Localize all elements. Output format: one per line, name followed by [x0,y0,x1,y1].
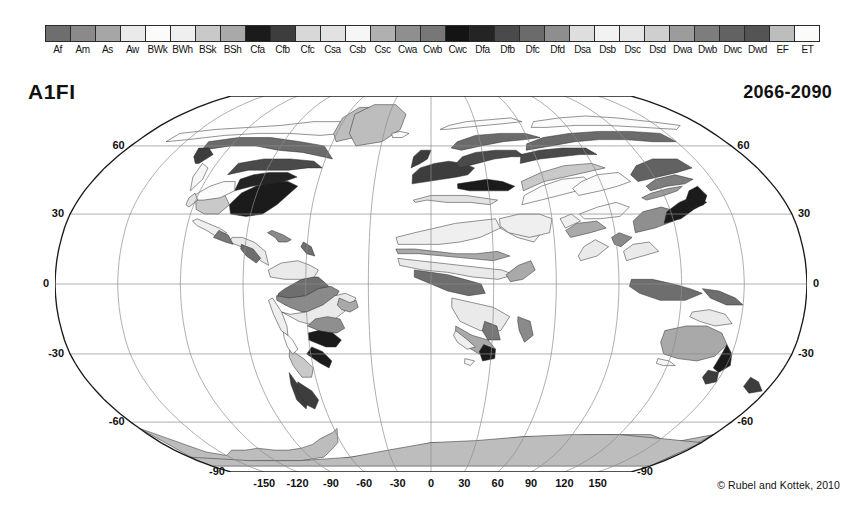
lat-label-right-0: 0 [813,277,841,289]
legend-swatch-csa [321,26,346,41]
lat-label-0: 0 [21,277,49,289]
legend-swatch-dfb [495,26,520,41]
lat-label--90: -90 [197,465,225,477]
legend-label-as: As [95,43,120,57]
legend-swatch-bwk [146,26,171,41]
legend-label-cfa: Cfa [245,43,270,57]
legend-swatch-dwc [720,26,745,41]
legend-label-dsc: Dsc [620,43,645,57]
legend-swatch-dsb [595,26,620,41]
credit-label: © Rubel and Kottek, 2010 [717,479,840,491]
legend-swatch-dsd [645,26,670,41]
legend-colorbar [45,25,820,42]
lat-label-30: 30 [36,207,64,219]
legend-label-dwb: Dwb [695,43,720,57]
legend-label-ef: EF [770,43,795,57]
legend-label-aw: Aw [120,43,145,57]
legend-label-am: Am [70,43,95,57]
lat-label-right-30: 30 [798,207,826,219]
legend-label-dfc: Dfc [520,43,545,57]
legend-swatch-as [96,26,121,41]
legend-label-bwk: BWk [145,43,170,57]
legend-swatch-af [46,26,71,41]
legend-swatch-cwc [446,26,471,41]
lat-label-right--30: -30 [798,347,826,359]
lat-label-60: 60 [97,139,125,151]
legend-label-af: Af [45,43,70,57]
legend-label-dfa: Dfa [470,43,495,57]
legend-swatch-cfc [296,26,321,41]
legend-label-dwd: Dwd [745,43,770,57]
map-svg [55,96,807,472]
legend-label-dfd: Dfd [545,43,570,57]
legend-label-dsd: Dsd [645,43,670,57]
legend-label-dwa: Dwa [670,43,695,57]
legend-swatch-ef [770,26,795,41]
legend-label-csc: Csc [370,43,395,57]
legend-swatch-dfa [470,26,495,41]
legend-label-dsa: Dsa [570,43,595,57]
legend-swatch-cwb [421,26,446,41]
legend-label-cwb: Cwb [420,43,445,57]
legend-label-et: ET [795,43,820,57]
lat-label-right-60: 60 [737,139,765,151]
figure-root: AfAmAsAwBWkBWhBSkBShCfaCfbCfcCsaCsbCscCw… [0,0,862,527]
legend-swatch-am [71,26,96,41]
legend-swatch-cfb [271,26,296,41]
legend-label-cwa: Cwa [395,43,420,57]
legend-label-dsb: Dsb [595,43,620,57]
legend-swatch-dfc [520,26,545,41]
legend-swatch-aw [121,26,146,41]
lat-label-right--90: -90 [637,465,665,477]
legend-label-cfc: Cfc [295,43,320,57]
legend-label-bsk: BSk [195,43,220,57]
legend-swatch-bsh [221,26,246,41]
legend-swatch-dfd [545,26,570,41]
legend-swatch-csc [371,26,396,41]
legend-swatch-bsk [196,26,221,41]
legend-swatch-dsa [570,26,595,41]
legend-label-cwc: Cwc [445,43,470,57]
legend-label-bwh: BWh [170,43,195,57]
legend-swatch-cwa [396,26,421,41]
lat-label-right--60: -60 [737,415,765,427]
legend-swatch-et [795,26,819,41]
legend-labels: AfAmAsAwBWkBWhBSkBShCfaCfbCfcCsaCsbCscCw… [45,43,820,57]
legend-label-cfb: Cfb [270,43,295,57]
world-map: 6060303000-30-30-60-60-90-90-150-120-90-… [55,96,807,472]
legend-label-csa: Csa [320,43,345,57]
legend-swatch-dwb [695,26,720,41]
legend-swatch-dwd [745,26,770,41]
legend-swatch-cfa [246,26,271,41]
legend-swatch-dsc [620,26,645,41]
legend-swatch-csb [346,26,371,41]
lat-label--60: -60 [97,415,125,427]
legend-label-dfb: Dfb [495,43,520,57]
legend-swatch-bwh [171,26,196,41]
legend-label-bsh: BSh [220,43,245,57]
legend-swatch-dwa [670,26,695,41]
legend-label-csb: Csb [345,43,370,57]
lat-label--30: -30 [36,347,64,359]
legend-label-dwc: Dwc [720,43,745,57]
lon-label-150: 150 [578,477,618,489]
